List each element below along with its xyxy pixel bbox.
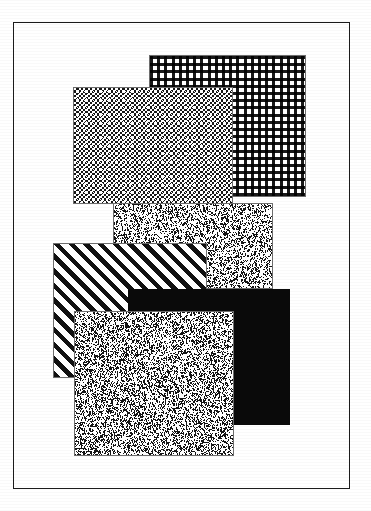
swatch-checker [73, 87, 233, 204]
figure-canvas [0, 0, 371, 511]
swatch-speckle-lower [74, 311, 234, 456]
speckle-texture [75, 312, 233, 455]
page-border-frame [13, 22, 350, 489]
